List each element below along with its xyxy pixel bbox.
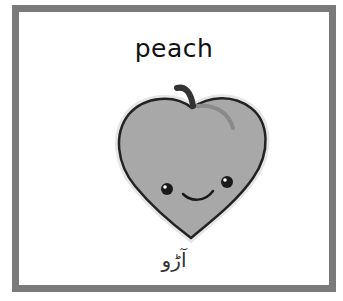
flashcard: peach آڑو: [12, 5, 336, 292]
word-title: peach: [19, 34, 329, 63]
urdu-translation: آڑو: [19, 248, 329, 272]
peach-character-icon: [105, 78, 280, 243]
